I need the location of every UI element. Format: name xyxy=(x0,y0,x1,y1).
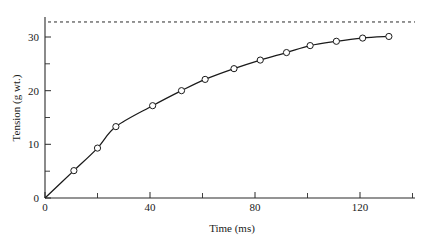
data-point-marker xyxy=(202,76,208,82)
x-axis-ticks xyxy=(45,192,413,198)
tension-curve xyxy=(45,36,389,198)
data-point-marker xyxy=(386,33,392,39)
data-point-marker xyxy=(307,42,313,48)
data-point-marker xyxy=(94,145,100,151)
data-point-marker xyxy=(231,66,237,72)
data-point-marker xyxy=(283,49,289,55)
data-markers xyxy=(71,33,392,173)
data-point-marker xyxy=(333,38,339,44)
x-tick-label-40: 40 xyxy=(145,201,157,213)
x-tick-label-120: 120 xyxy=(352,201,369,213)
data-point-marker xyxy=(257,57,263,63)
y-tick-labels: 0 10 20 30 xyxy=(28,31,40,204)
axes-group xyxy=(45,17,415,198)
data-point-marker xyxy=(150,103,156,109)
chart-figure: 0 10 20 30 0 40 80 120 Time (ms) Tension… xyxy=(0,0,427,244)
data-point-marker xyxy=(178,88,184,94)
y-axis-title: Tension (g wt.) xyxy=(10,74,23,141)
data-point-marker xyxy=(71,168,77,174)
x-tick-labels: 0 40 80 120 xyxy=(42,201,369,213)
data-point-marker xyxy=(113,124,119,130)
y-tick-label-0: 0 xyxy=(34,192,40,204)
x-axis-title: Time (ms) xyxy=(209,222,255,235)
y-axis-ticks xyxy=(45,37,51,198)
x-tick-label-0: 0 xyxy=(42,201,48,213)
x-tick-label-80: 80 xyxy=(250,201,262,213)
data-point-marker xyxy=(360,35,366,41)
y-tick-label-10: 10 xyxy=(28,138,40,150)
tension-vs-time-plot: 0 10 20 30 0 40 80 120 Time (ms) Tension… xyxy=(0,0,427,244)
y-tick-label-20: 20 xyxy=(28,85,40,97)
y-tick-label-30: 30 xyxy=(28,31,40,43)
